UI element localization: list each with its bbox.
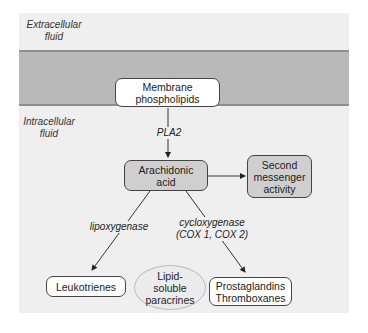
membrane-phospholipids-node: Membrane phospholipids bbox=[115, 78, 220, 107]
second-messenger-line-2: messenger bbox=[254, 171, 306, 183]
prostaglandins-thromboxanes-node: Prostaglandins Thromboxanes bbox=[209, 277, 292, 306]
paracrines-line-2: soluble bbox=[145, 282, 194, 294]
leukotrienes-line-1: Leukotrienes bbox=[56, 281, 116, 293]
prostaglandins-line: Prostaglandins bbox=[215, 280, 285, 292]
cyclooxygenase-line-1: cycloxygenase bbox=[172, 217, 252, 229]
arachidonic-acid-line-1: Arachidonic bbox=[139, 164, 194, 176]
paracrines-line-1: Lipid- bbox=[145, 270, 194, 282]
leukotrienes-node: Leukotrienes bbox=[46, 276, 126, 297]
membrane-phospholipids-line-2: phospholipids bbox=[135, 93, 199, 105]
pla2-enzyme-label: PLA2 bbox=[154, 127, 184, 139]
lipoxygenase-enzyme-label: lipoxygenase bbox=[86, 221, 152, 233]
thromboxanes-line: Thromboxanes bbox=[215, 292, 285, 304]
cyclooxygenase-line-2: (COX 1, COX 2) bbox=[172, 229, 252, 241]
second-messenger-line-1: Second bbox=[254, 159, 306, 171]
arachidonic-acid-node: Arachidonic acid bbox=[124, 160, 208, 191]
arachidonic-acid-line-2: acid bbox=[139, 176, 194, 188]
cyclooxygenase-enzyme-label: cycloxygenase (COX 1, COX 2) bbox=[172, 217, 252, 241]
lipid-soluble-paracrines-node: Lipid- soluble paracrines bbox=[134, 265, 206, 310]
paracrines-line-3: paracrines bbox=[145, 294, 194, 306]
membrane-phospholipids-line-1: Membrane bbox=[135, 81, 199, 93]
second-messenger-node: Second messenger activity bbox=[247, 155, 312, 198]
second-messenger-line-3: activity bbox=[254, 183, 306, 195]
